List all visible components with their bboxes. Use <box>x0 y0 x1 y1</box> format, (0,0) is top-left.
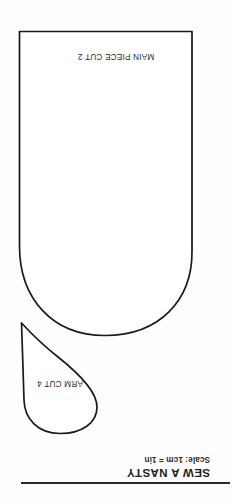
arm-piece-label: ARM CUT 4 <box>18 379 102 388</box>
scale-note: Scale: 1cm = 1in <box>25 453 210 465</box>
footer-text-group: SEW A NASTY Scale: 1cm = 1in <box>25 453 210 480</box>
main-piece-outline <box>20 32 193 336</box>
pattern-drawing <box>0 0 235 502</box>
footer-divider <box>21 482 230 484</box>
brand-title: SEW A NASTY <box>25 466 210 480</box>
pattern-sheet: MAIN PIECE CUT 2 ARM CUT 4 SEW A NASTY S… <box>0 0 235 502</box>
footer-block: SEW A NASTY Scale: 1cm = 1in <box>0 440 235 480</box>
main-piece-label: MAIN PIECE CUT 2 <box>56 52 176 61</box>
